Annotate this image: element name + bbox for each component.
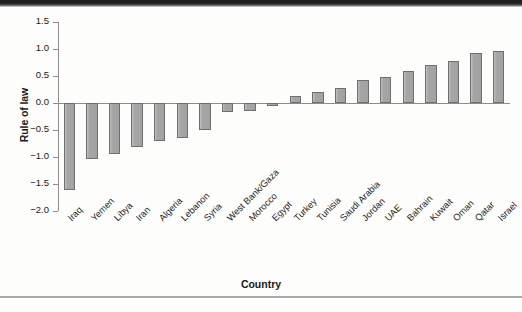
y-tick-label: 1.0 <box>36 42 49 53</box>
zero-baseline <box>58 103 510 104</box>
bar <box>312 92 324 103</box>
y-tick: 0.0 <box>53 103 58 104</box>
y-tick-label: −0.5 <box>30 123 49 134</box>
bar <box>267 103 279 106</box>
page-bottom-rule <box>0 296 522 298</box>
bar <box>177 103 189 138</box>
x-axis-title: Country <box>0 278 522 290</box>
bar <box>64 103 76 190</box>
bar <box>222 103 234 112</box>
bar <box>199 103 211 130</box>
y-tick-label: 0.5 <box>36 69 49 80</box>
y-tick-label: −1.0 <box>30 150 49 161</box>
bar <box>290 96 302 103</box>
bar <box>357 80 369 103</box>
bar <box>425 65 437 103</box>
bar <box>86 103 98 159</box>
y-tick-label: 1.5 <box>36 15 49 26</box>
bar <box>470 53 482 103</box>
y-tick: −0.5 <box>53 130 58 131</box>
bar <box>154 103 166 141</box>
bar <box>109 103 121 154</box>
y-tick: −2.0 <box>53 211 58 212</box>
bar <box>403 71 415 103</box>
bar <box>448 61 460 103</box>
bar <box>131 103 143 147</box>
bar <box>380 77 392 103</box>
y-tick-label: 0.0 <box>36 96 49 107</box>
bar <box>335 88 347 103</box>
y-tick-label: −1.5 <box>30 177 49 188</box>
page-top-edge-band <box>0 0 522 7</box>
y-axis-title: Rule of law <box>18 65 30 165</box>
y-tick: 1.5 <box>53 22 58 23</box>
y-tick: −1.0 <box>53 157 58 158</box>
plot-area: 1.51.00.50.0−0.5−1.0−1.5−2.0 <box>58 22 510 211</box>
y-tick: −1.5 <box>53 184 58 185</box>
y-tick: 0.5 <box>53 76 58 77</box>
bar <box>493 51 505 103</box>
y-axis-line <box>58 22 59 211</box>
bar <box>244 103 256 111</box>
y-tick: 1.0 <box>53 49 58 50</box>
y-tick-label: −2.0 <box>30 204 49 215</box>
chart-page: Rule of law 1.51.00.50.0−0.5−1.0−1.5−2.0… <box>0 0 522 312</box>
